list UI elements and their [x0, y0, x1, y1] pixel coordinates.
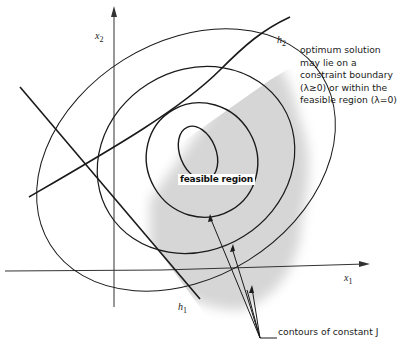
- x2-arrowhead: [111, 6, 117, 17]
- contours-label: contours of constant J: [278, 326, 378, 337]
- feasible-region-label: feasible region: [178, 174, 255, 185]
- optimum-annotation: optimum solution may lie on a constraint…: [300, 44, 402, 107]
- annotation-line: optimum solution: [300, 44, 402, 57]
- annotation-line: (λ≥0) or within the: [300, 82, 402, 95]
- annotation-line: constraint boundary: [300, 69, 402, 82]
- annotation-line: feasible region (λ=0): [300, 94, 402, 107]
- x2-axis-label: x2: [95, 30, 103, 44]
- annotation-line: may lie on a: [300, 57, 402, 70]
- h2-label: h2: [277, 34, 286, 48]
- h1-label: h1: [178, 301, 187, 315]
- x1-axis: [5, 270, 162, 271]
- x1-axis-label: x1: [344, 272, 352, 286]
- x1-arrowhead: [359, 261, 370, 267]
